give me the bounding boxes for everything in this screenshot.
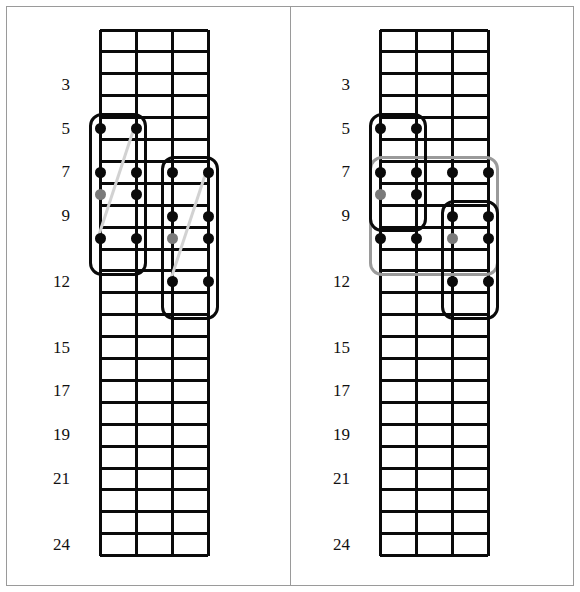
fret-line [380,467,488,470]
fret-number-label: 17 [320,382,350,399]
fret-number-label: 24 [40,536,70,553]
fret-number-label: 5 [320,120,350,137]
fret-line [380,510,488,513]
string-line [99,30,102,556]
root-note-dot [95,189,106,200]
note-dot [131,123,142,134]
note-dot [483,211,494,222]
fret-number-label: 24 [320,536,350,553]
note-dot [411,123,422,134]
fret-line [380,94,488,97]
root-note-dot [167,233,178,244]
fret-line [380,532,488,535]
fret-number-label: 9 [40,207,70,224]
note-dot [95,167,106,178]
note-dot [131,233,142,244]
note-dot [167,211,178,222]
fret-line [100,29,208,32]
fret-number-label: 17 [40,382,70,399]
fret-line [100,445,208,448]
fret-line [100,423,208,426]
fret-number-label: 3 [320,76,350,93]
fret-line [380,357,488,360]
note-dot [447,211,458,222]
root-note-dot [447,233,458,244]
note-dot [447,167,458,178]
fret-number-label: 7 [40,163,70,180]
fret-number-label: 9 [320,207,350,224]
fret-number-label: 12 [320,273,350,290]
note-dot [411,167,422,178]
note-dot [167,167,178,178]
fret-line [380,445,488,448]
note-dot [167,276,178,287]
root-note-dot [375,189,386,200]
fret-number-label: 21 [40,470,70,487]
note-dot [203,276,214,287]
fret-line [100,532,208,535]
fret-line [100,379,208,382]
note-dot [411,189,422,200]
string-line [135,30,138,556]
fret-number-label: 3 [40,76,70,93]
fret-number-label: 19 [40,426,70,443]
fret-line [380,401,488,404]
string-line [379,30,382,556]
note-dot [483,233,494,244]
note-dot [95,123,106,134]
fret-line [380,72,488,75]
fret-line [100,72,208,75]
note-dot [375,167,386,178]
fret-number-label: 19 [320,426,350,443]
fret-line [380,554,488,557]
fret-number-label: 15 [40,339,70,356]
fret-number-label: 7 [320,163,350,180]
fret-line [100,94,208,97]
fret-line [100,335,208,338]
fret-number-label: 5 [40,120,70,137]
fret-line [380,50,488,53]
note-dot [95,233,106,244]
string-line [415,30,418,556]
fret-line [100,554,208,557]
fret-line [380,335,488,338]
fret-number-label: 21 [320,470,350,487]
fret-line [100,401,208,404]
note-dot [375,123,386,134]
fret-line [100,510,208,513]
fret-line [100,488,208,491]
diagram-page: 35791215171921243579121517192124 [0,0,580,592]
note-dot [375,233,386,244]
note-dot [411,233,422,244]
fret-line [100,467,208,470]
fret-line [380,29,488,32]
note-dot [203,167,214,178]
note-dot [483,167,494,178]
fret-line [100,357,208,360]
fret-number-label: 15 [320,339,350,356]
fret-line [100,50,208,53]
note-dot [131,189,142,200]
fret-line [380,488,488,491]
note-dot [447,276,458,287]
note-dot [483,276,494,287]
fret-number-label: 12 [40,273,70,290]
note-dot [203,211,214,222]
note-dot [131,167,142,178]
fret-line [380,423,488,426]
fret-line [380,379,488,382]
note-dot [203,233,214,244]
